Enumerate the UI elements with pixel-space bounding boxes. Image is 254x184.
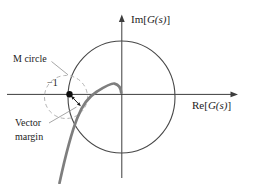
re-label-prefix: Re[ xyxy=(192,99,208,111)
nyquist-curve xyxy=(60,84,122,183)
plot-canvas xyxy=(0,0,254,184)
vector-margin-label-line1: Vector xyxy=(15,116,43,130)
imaginary-axis-arrowhead-icon xyxy=(119,15,125,23)
vector-margin-label: Vector margin xyxy=(15,116,43,143)
real-axis-label: Re[G(s)] xyxy=(192,99,231,111)
real-axis-arrowhead-icon xyxy=(231,92,239,98)
nyquist-vector-margin-figure: Im[G(s)] Re[G(s)] M circle −1 Vector mar… xyxy=(0,0,254,184)
im-label-prefix: Im[ xyxy=(131,13,147,25)
im-label-symbol: G(s) xyxy=(147,13,167,25)
m-circle-leader-line xyxy=(52,62,69,75)
vector-margin-label-line2: margin xyxy=(15,130,43,144)
minus-one-label: −1 xyxy=(47,77,58,88)
re-label-suffix: ] xyxy=(227,99,231,111)
re-label-symbol: G(s) xyxy=(208,99,228,111)
vector-margin-arrow-shaft xyxy=(73,98,78,104)
minus-one-point xyxy=(66,91,72,97)
imaginary-axis-label: Im[G(s)] xyxy=(131,13,170,25)
m-circle-label: M circle xyxy=(13,53,47,64)
im-label-suffix: ] xyxy=(166,13,170,25)
